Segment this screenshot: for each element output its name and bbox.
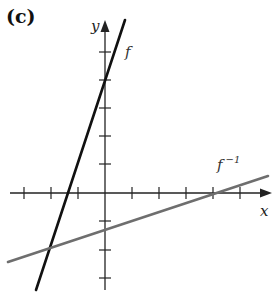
f_inverse-label: f−1 [216,154,240,174]
f_inverse-line [8,176,268,262]
function-labels: ff−1 [124,43,240,174]
panel-label: (c) [6,5,36,27]
x-axis-arrow-icon [260,189,272,198]
f-label: f [124,43,133,61]
graph-figure: (c) y x ff−1 [0,0,279,293]
y-axis-label: y [90,17,100,35]
x-axis-label: x [260,202,269,220]
y-axis-arrow-icon [101,20,110,32]
